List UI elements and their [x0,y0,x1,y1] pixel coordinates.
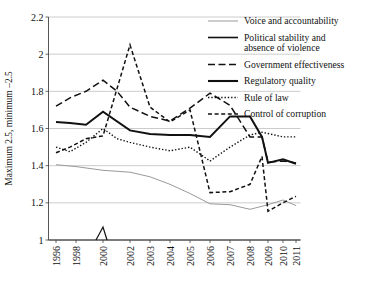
x-tick-label: 2006 [205,246,216,266]
x-tick-label: 2000 [98,246,109,266]
x-axis-tick-labels: 1996199820002002200320042005200620072008… [51,240,302,266]
y-tick-label: 1 [39,235,44,246]
x-tick-label: 2010 [278,246,289,266]
y-axis-title: Maximum 2.5, minimum –2.5 [4,71,14,186]
legend-label: Rule of law [244,92,289,103]
x-tick-label: 2009 [263,246,274,266]
legend-label: Control of corruption [244,108,326,119]
legend-label-continued: absence of violence [244,42,320,53]
y-tick-label: 2.2 [31,12,44,23]
y-tick-label: 1.8 [31,86,44,97]
y-tick-label: 1.2 [31,197,44,208]
x-tick-label: 2002 [125,246,136,266]
x-tick-label: 2007 [225,246,236,266]
y-tick-label: 1.6 [31,123,44,134]
y-tick-label: 2 [39,49,44,60]
x-tick-label: 2008 [245,246,256,266]
line-chart: 11.21.41.61.822.2 1996199820002002200320… [0,0,367,289]
x-tick-label: 2005 [185,246,196,266]
x-tick-label: 2011 [291,246,302,266]
data-series [56,45,296,240]
x-tick-label: 2003 [145,246,156,266]
x-tick-label: 1998 [71,246,82,266]
legend-label: Political stability and [244,32,326,43]
series-line [96,227,107,240]
y-axis-tick-labels: 11.21.41.61.822.2 [31,12,49,246]
y-tick-label: 1.4 [31,160,44,171]
legend-label: Regulatory quality [244,75,316,86]
x-tick-label: 1996 [51,246,62,266]
x-tick-label: 2004 [165,246,176,266]
legend-label: Voice and accountability [244,15,339,26]
y-axis-title-text: Maximum 2.5, minimum –2.5 [4,71,14,186]
legend-label: Government effectiveness [244,59,345,70]
chart-container: 11.21.41.61.822.2 1996199820002002200320… [0,0,367,289]
